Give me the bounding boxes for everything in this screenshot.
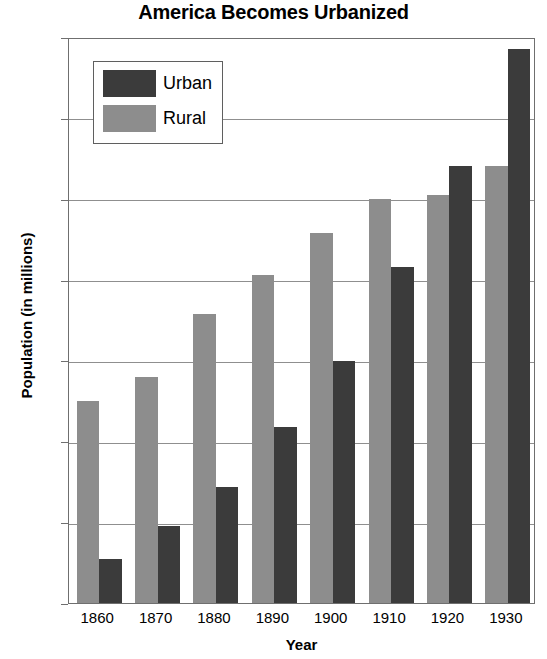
bar-urban-1860: [99, 559, 122, 603]
x-tick-label-1860: 1860: [68, 609, 126, 626]
x-tick-label-1910: 1910: [360, 609, 418, 626]
bar-urban-1890: [274, 427, 297, 603]
y-axis-label: Population (in millions): [18, 196, 35, 436]
bar-rural-1900: [310, 233, 333, 603]
y-tick-mark: [61, 119, 68, 120]
bar-rural-1930: [485, 166, 508, 603]
y-tick-mark: [61, 523, 68, 524]
bar-rural-1910: [369, 199, 392, 603]
y-tick-mark: [61, 604, 68, 605]
x-tick-label-1880: 1880: [185, 609, 243, 626]
bar-rural-1920: [427, 195, 450, 603]
legend-swatch-urban: [103, 70, 156, 97]
bar-rural-1880: [193, 314, 216, 603]
bar-urban-1900: [333, 361, 356, 603]
bar-rural-1870: [135, 377, 158, 603]
bar-rural-1890: [252, 275, 275, 603]
y-tick-mark: [61, 200, 68, 201]
chart-figure: America Becomes Urbanized Population (in…: [0, 0, 547, 659]
legend-label-urban: Urban: [163, 71, 212, 96]
chart-title: America Becomes Urbanized: [0, 1, 547, 24]
y-tick-mark: [61, 281, 68, 282]
x-tick-label-1890: 1890: [243, 609, 301, 626]
x-tick-label-1900: 1900: [302, 609, 360, 626]
x-tick-label-1930: 1930: [477, 609, 535, 626]
y-tick-mark: [61, 361, 68, 362]
x-tick-label-1870: 1870: [126, 609, 184, 626]
chart-legend: UrbanRural: [93, 61, 223, 144]
legend-label-rural: Rural: [163, 106, 206, 131]
bar-rural-1860: [77, 401, 100, 603]
bar-urban-1930: [508, 49, 531, 603]
bar-urban-1910: [391, 267, 414, 603]
bar-urban-1880: [216, 487, 239, 603]
x-tick-label-1920: 1920: [418, 609, 476, 626]
x-axis-label: Year: [68, 636, 535, 653]
y-tick-mark: [61, 442, 68, 443]
y-tick-mark: [61, 38, 68, 39]
legend-swatch-rural: [103, 105, 156, 132]
bar-urban-1870: [158, 526, 181, 603]
bar-urban-1920: [449, 166, 472, 603]
